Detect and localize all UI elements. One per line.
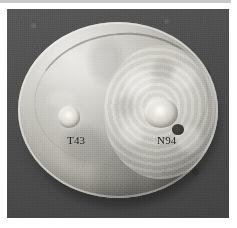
figure-page: T43 N94 xyxy=(0,0,237,228)
petri-dish-photograph: T43 N94 xyxy=(7,9,229,218)
colony-label-n94: N94 xyxy=(157,135,177,146)
colony-t43 xyxy=(58,106,80,127)
top-divider-rule xyxy=(0,0,231,3)
colony-n94-core xyxy=(153,105,169,119)
colony-n94 xyxy=(144,98,178,128)
colony-label-t43: T43 xyxy=(67,135,85,146)
colony-t43-core xyxy=(64,111,74,121)
petri-dish xyxy=(18,22,218,198)
